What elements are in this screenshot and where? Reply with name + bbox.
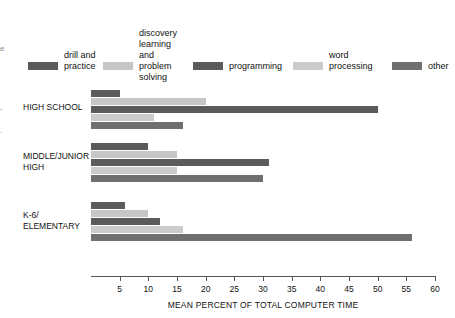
axis-tick-label: 50 (373, 284, 382, 294)
group-label: MIDDLE/JUNIOR HIGH (23, 151, 89, 172)
axis-tick (435, 276, 436, 281)
bar (91, 98, 206, 105)
axis-tick-label: 10 (144, 284, 153, 294)
legend-swatch (28, 62, 58, 70)
bar (91, 114, 154, 121)
axis-tick (234, 276, 235, 281)
axis-tick (349, 276, 350, 281)
bar-chart: e - . drill and practice discovery learn… (0, 0, 455, 318)
axis-tick-label: 25 (230, 284, 239, 294)
axis-tick-label: 15 (172, 284, 181, 294)
legend-swatch (392, 62, 422, 70)
axis-tick (292, 276, 293, 281)
legend-swatch (293, 62, 323, 70)
legend-swatch (103, 62, 133, 70)
group-label: HIGH SCHOOL (23, 102, 89, 113)
legend-label: discovery learning and problem solving (139, 28, 177, 83)
legend-label: drill and practice (64, 50, 96, 72)
legend-label: programming (229, 61, 282, 72)
axis-tick-label: 35 (287, 284, 296, 294)
axis-tick (177, 276, 178, 281)
bar (91, 210, 148, 217)
bar (91, 106, 378, 113)
bar (91, 226, 183, 233)
chart-legend: drill and practice discovery learning an… (0, 8, 455, 80)
bar-series-container (91, 90, 378, 130)
axis-tick-label: 30 (258, 284, 267, 294)
axis-tick-label: 20 (201, 284, 210, 294)
x-axis-title: MEAN PERCENT OF TOTAL COMPUTER TIME (91, 300, 435, 310)
bar (91, 151, 177, 158)
axis-tick (378, 276, 379, 281)
axis-tick (263, 276, 264, 281)
group-label: K-6/ ELEMENTARY (23, 210, 89, 231)
bar (91, 159, 269, 166)
bar (91, 143, 148, 150)
bar-series-container (91, 202, 412, 242)
axis-tick-label: 40 (316, 284, 325, 294)
legend-label: other (428, 61, 449, 72)
axis-tick (120, 276, 121, 281)
x-axis: MEAN PERCENT OF TOTAL COMPUTER TIME 5101… (0, 276, 455, 318)
axis-tick-label: 55 (402, 284, 411, 294)
bar (91, 167, 177, 174)
axis-tick-label: 60 (430, 284, 439, 294)
axis-tick (406, 276, 407, 281)
legend-swatch (193, 62, 223, 70)
bar (91, 90, 120, 97)
axis-tick (320, 276, 321, 281)
bar (91, 218, 160, 225)
bar (91, 175, 263, 182)
bar-series-container (91, 143, 269, 183)
bar (91, 202, 125, 209)
legend-label: word processing (329, 50, 373, 72)
bar (91, 122, 183, 129)
axis-tick-label: 45 (344, 284, 353, 294)
bar (91, 234, 412, 241)
axis-tick (148, 276, 149, 281)
plot-area: HIGH SCHOOL MIDDLE/JUNIOR HIGH K-6/ ELEM… (0, 90, 455, 275)
axis-tick (206, 276, 207, 281)
axis-tick-label: 5 (117, 284, 122, 294)
